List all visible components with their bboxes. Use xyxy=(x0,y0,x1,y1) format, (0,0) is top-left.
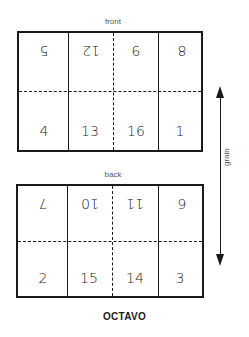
page-number: 14 xyxy=(115,270,155,286)
grain-label: grain xyxy=(222,148,231,166)
page-number: 8 xyxy=(162,43,202,59)
page-number: 9 xyxy=(116,43,156,59)
page-number: 1 xyxy=(160,123,200,139)
back-label: back xyxy=(83,170,143,179)
front-sheet: 5 12 9 8 4 13 16 1 xyxy=(17,31,203,152)
page-number: 11 xyxy=(115,196,155,212)
page-number: 10 xyxy=(70,196,110,212)
page-number: 7 xyxy=(23,196,63,212)
page-number: 4 xyxy=(24,123,64,139)
arrow-up-icon xyxy=(216,86,224,98)
arrow-down-icon xyxy=(216,254,224,266)
page-number: 13 xyxy=(70,123,110,139)
page-number: 15 xyxy=(69,270,109,286)
page-number: 2 xyxy=(23,270,63,286)
fold-dashed-horizontal xyxy=(18,241,202,242)
front-label: front xyxy=(83,17,143,26)
page-number: 3 xyxy=(160,270,200,286)
page-number: 16 xyxy=(116,123,156,139)
page-number: 6 xyxy=(162,196,202,212)
diagram-title: OCTAVO xyxy=(0,311,249,322)
back-sheet: 7 10 11 6 2 15 14 3 xyxy=(16,184,204,298)
fold-dashed-horizontal xyxy=(19,91,201,92)
grain-arrow-shaft xyxy=(220,90,221,260)
page-number: 12 xyxy=(71,43,111,59)
page-number: 5 xyxy=(24,43,64,59)
